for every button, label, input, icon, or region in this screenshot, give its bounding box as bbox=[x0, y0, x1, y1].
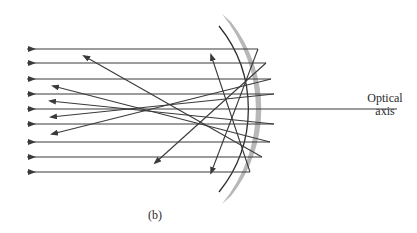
optical-axis-label-line2: axis bbox=[360, 105, 410, 118]
concave-mirror-diagram bbox=[0, 0, 417, 233]
incident-arrowheads bbox=[28, 46, 36, 175]
optical-axis-label: Optical axis bbox=[360, 92, 410, 118]
figure-caption: (b) bbox=[148, 209, 162, 222]
